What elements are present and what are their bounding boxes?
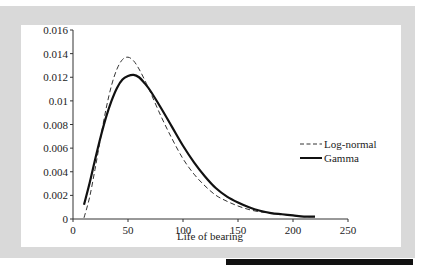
legend-label: Log-normal xyxy=(324,138,377,150)
y-tick-label: 0.008 xyxy=(43,119,68,131)
y-tick-label: 0.002 xyxy=(43,189,68,201)
x-tick-label: 0 xyxy=(70,224,76,236)
legend: Log-normalGamma xyxy=(300,138,377,164)
series-lines xyxy=(84,57,315,218)
series-gamma xyxy=(84,75,315,217)
y-tick-label: 0.012 xyxy=(43,71,68,83)
y-tick-label: 0.004 xyxy=(43,166,68,178)
line-chart: 00.0020.0040.0060.0080.010.0120.0140.016… xyxy=(0,0,421,265)
y-tick-label: 0.01 xyxy=(49,95,68,107)
y-tick-label: 0.006 xyxy=(43,142,68,154)
x-axis-label: Life of bearing xyxy=(177,230,243,242)
x-tick-label: 250 xyxy=(340,224,357,236)
y-tick-label: 0.014 xyxy=(43,48,68,60)
series-log-normal xyxy=(84,57,315,218)
y-tick-label: 0.016 xyxy=(43,24,68,36)
x-tick-label: 200 xyxy=(285,224,302,236)
y-tick-label: 0 xyxy=(63,213,69,225)
x-tick-label: 50 xyxy=(123,224,135,236)
y-axis-ticks: 00.0020.0040.0060.0080.010.0120.0140.016 xyxy=(43,24,73,225)
legend-label: Gamma xyxy=(324,152,359,164)
